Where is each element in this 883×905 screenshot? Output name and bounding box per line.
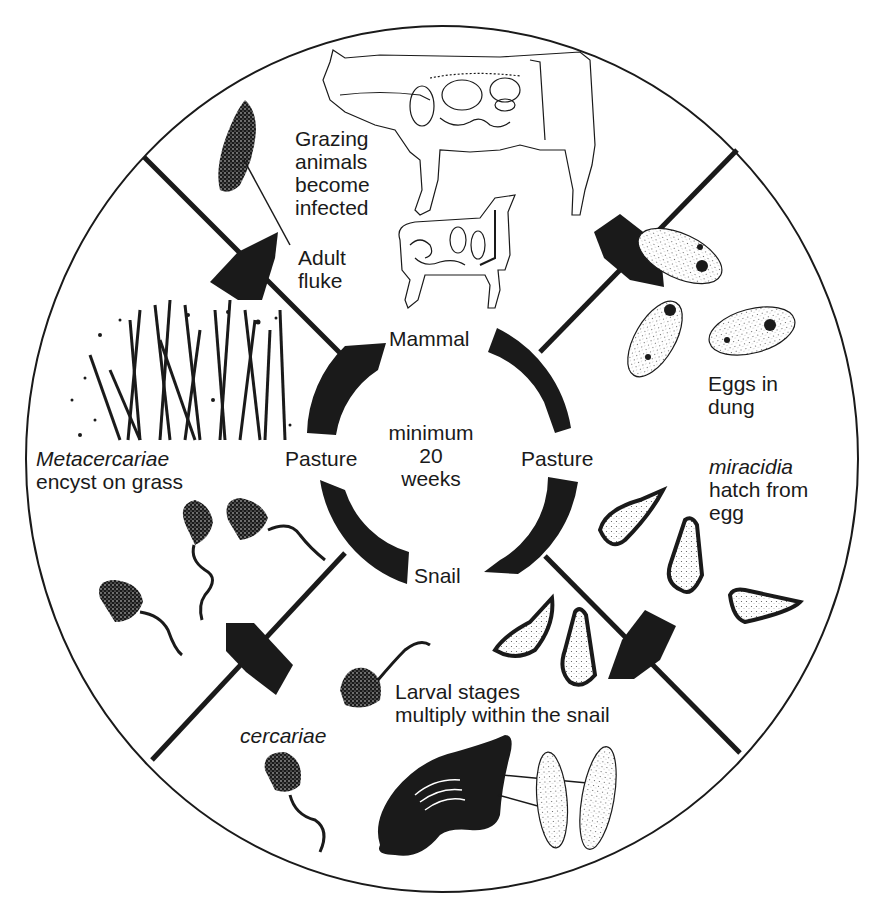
center-line-3: weeks: [366, 467, 496, 490]
miracidia-line-1: miracidia: [709, 455, 808, 478]
grazing-line-3: become: [295, 173, 370, 196]
eggs-line-2: dung: [708, 395, 778, 418]
center-duration-label: minimum 20 weeks: [366, 421, 496, 490]
metacercariae-line-2: encyst on grass: [36, 470, 183, 493]
adult-fluke-line-1: Adult: [298, 246, 346, 269]
egg-illustrations: [617, 217, 801, 385]
stage-label-miracidia: miracidia hatch from egg: [709, 455, 808, 524]
snail-illustration: [378, 735, 623, 856]
eggs-line-1: Eggs in: [708, 372, 778, 395]
stage-label-grazing: Grazing animals become infected: [295, 127, 370, 219]
grazing-line-4: infected: [295, 196, 370, 219]
stage-label-adult-fluke: Adult fluke: [298, 246, 346, 292]
center-line-1: minimum: [366, 421, 496, 444]
stage-label-cercariae: cercariae: [240, 724, 326, 747]
arrow-icon-adult: [210, 232, 278, 300]
metacercariae-line-1: Metacercariae: [36, 447, 183, 470]
larval-line-2: multiply within the snail: [395, 703, 610, 726]
arrow-icon-miracidia: [608, 610, 676, 679]
adult-fluke-illustration: [218, 100, 290, 245]
ring-label-mammal: Mammal: [389, 327, 470, 350]
miracidia-line-3: egg: [709, 501, 808, 524]
ring-label-pasture-right: Pasture: [521, 447, 593, 470]
ring-label-snail: Snail: [414, 564, 461, 587]
arrow-icon-cercariae: [226, 623, 293, 695]
ring-label-pasture-left: Pasture: [285, 447, 357, 470]
stage-label-larval: Larval stages multiply within the snail: [395, 680, 610, 726]
miracidia-line-2: hatch from: [709, 478, 808, 501]
grazing-line-1: Grazing: [295, 127, 370, 150]
ring-segment-bottom-right: [484, 477, 578, 574]
ring-segment-top-right: [488, 328, 571, 433]
life-cycle-diagram: minimum 20 weeks Mammal Pasture Snail Pa…: [0, 0, 883, 905]
adult-fluke-line-2: fluke: [298, 269, 346, 292]
grazing-line-2: animals: [295, 150, 370, 173]
stage-label-metacercariae: Metacercariae encyst on grass: [36, 447, 183, 493]
larval-line-1: Larval stages: [395, 680, 610, 703]
center-line-2: 20: [366, 444, 496, 467]
grass-illustration: [71, 300, 292, 440]
stage-label-eggs: Eggs in dung: [708, 372, 778, 418]
